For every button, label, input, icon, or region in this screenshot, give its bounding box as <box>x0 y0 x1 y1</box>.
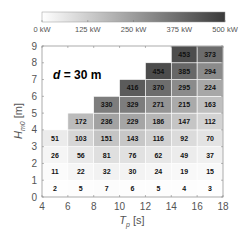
cell-value: 416 <box>127 84 139 91</box>
cell-value: 30 <box>129 168 137 175</box>
colorbar-tick-label: 0 kW <box>33 25 51 34</box>
cell-value: 385 <box>178 68 190 75</box>
cell-value: 112 <box>204 118 215 125</box>
x-tick-label: 10 <box>114 201 126 212</box>
cell-value: 26 <box>51 152 59 159</box>
cell-value: 215 <box>178 101 190 108</box>
cell-value: 3 <box>208 185 212 192</box>
cell-value: 329 <box>127 101 139 108</box>
y-tick-label: 8 <box>31 57 37 68</box>
cell-value: 151 <box>101 135 113 142</box>
y-tick-label: 6 <box>31 91 37 102</box>
y-tick-label: 7 <box>31 74 37 85</box>
x-tick-label: 12 <box>140 201 152 212</box>
cell-value: 271 <box>153 101 165 108</box>
cell-value: 92 <box>180 135 188 142</box>
cell-value: 186 <box>153 118 165 125</box>
cell-value: 51 <box>51 135 59 142</box>
depth-annotation: d = 30 m <box>53 68 101 82</box>
cell-value: 37 <box>206 152 214 159</box>
cell-value: 56 <box>77 152 85 159</box>
plot-area: 2112651522561031727328115123633063076143… <box>31 41 229 213</box>
cell-value: 172 <box>75 118 87 125</box>
y-tick-label: 4 <box>31 124 37 135</box>
cell-value: 4 <box>182 185 186 192</box>
x-tick-label: 14 <box>166 201 178 212</box>
cell-value: 19 <box>180 168 188 175</box>
cell-value: 70 <box>206 135 214 142</box>
y-tick-label: 5 <box>31 108 37 119</box>
colorbar: 0 kW125 kW250 kW375 kW500 kW <box>33 12 238 34</box>
cell-value: 76 <box>129 152 137 159</box>
cell-value: 229 <box>127 118 139 125</box>
cell-value: 147 <box>178 118 190 125</box>
cell-value: 453 <box>178 51 190 58</box>
cell-value: 62 <box>154 152 162 159</box>
y-tick-label: 9 <box>31 41 37 52</box>
cell-value: 5 <box>79 185 83 192</box>
cell-value: 330 <box>101 101 113 108</box>
y-tick-label: 2 <box>31 158 37 169</box>
cell-value: 2 <box>53 185 57 192</box>
cell-value: 294 <box>204 68 216 75</box>
cell-value: 22 <box>77 168 85 175</box>
cell-value: 49 <box>180 152 188 159</box>
y-tick-label: 0 <box>31 192 37 203</box>
cell-value: 103 <box>75 135 87 142</box>
colorbar-tick-label: 250 kW <box>121 25 147 34</box>
x-axis-label: Tp [s] <box>119 214 144 229</box>
x-tick-label: 6 <box>65 201 71 212</box>
cell-value: 7 <box>105 185 109 192</box>
cell-value: 236 <box>101 118 113 125</box>
cell-value: 143 <box>127 135 139 142</box>
x-tick-label: 16 <box>192 201 204 212</box>
cell-value: 5 <box>156 185 160 192</box>
cell-value: 163 <box>204 101 216 108</box>
cell-value: 11 <box>51 168 59 175</box>
cell-value: 116 <box>153 135 164 142</box>
cell-value: 373 <box>204 51 216 58</box>
cell-value: 15 <box>206 168 214 175</box>
cell-value: 6 <box>131 185 135 192</box>
y-tick-label: 1 <box>31 175 37 186</box>
cell-value: 81 <box>103 152 111 159</box>
cell-value: 224 <box>204 84 216 91</box>
colorbar-tick-label: 375 kW <box>167 25 193 34</box>
colorbar-tick-label: 500 kW <box>212 25 238 34</box>
cell-value: 370 <box>153 84 165 91</box>
x-tick-label: 8 <box>91 201 97 212</box>
cell-value: 454 <box>153 68 165 75</box>
cell-value: 295 <box>178 84 190 91</box>
heatmap-chart: 0 kW125 kW250 kW375 kW500 kW 21126515225… <box>0 0 250 241</box>
cell-value: 24 <box>154 168 162 175</box>
cell-value: 32 <box>103 168 111 175</box>
colorbar-tick-label: 125 kW <box>75 25 101 34</box>
x-tick-label: 4 <box>39 201 45 212</box>
y-tick-label: 3 <box>31 141 37 152</box>
y-axis-label: Hm0 [m] <box>12 103 26 139</box>
x-tick-label: 18 <box>217 201 229 212</box>
